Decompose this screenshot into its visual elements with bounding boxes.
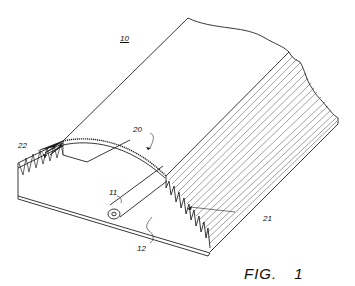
right-block-edge [210,124,338,252]
label-assembly-10: 10 [120,34,129,43]
arched-cover [63,139,166,178]
label-arched-region-20: 20 [133,125,142,134]
figure-caption-prefix: FIG. [244,265,277,282]
base-sheet [18,163,210,256]
pleat-zigzag-left [18,141,87,175]
leader-lines [38,133,235,243]
label-pleated-region-21: 21 [263,214,272,223]
label-base-sheet-12: 12 [137,244,146,253]
top-panel [63,18,338,141]
label-tube-11: 11 [109,188,117,197]
figure-caption: FIG. 1 [244,265,304,282]
patent-figure-drawing [0,0,355,286]
figure-number: 1 [294,265,303,282]
pleat-zigzag-right [166,176,210,248]
label-pleat-edge-22: 22 [18,141,27,150]
